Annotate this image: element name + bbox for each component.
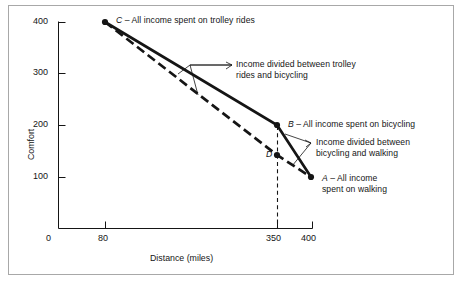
curve-trolley-bicycling (105, 22, 311, 177)
annotation-point-a-line1: All income (337, 173, 377, 183)
y-tick-label-0: 0 (46, 233, 51, 243)
callout-trolley-bicycling-line1: Income divided between trolley (236, 59, 356, 69)
annotation-point-a: A – All incomespent on walking (322, 173, 387, 196)
figure-container: 400 300 200 100 0 80 350 400 Comfort Dis… (0, 0, 464, 282)
annotation-point-c-dash: – (122, 15, 131, 25)
leader-trolley-bicycling (178, 62, 232, 95)
annotation-point-c: C – All income spent on trolley rides (116, 15, 255, 26)
x-tick-label-400: 400 (301, 233, 316, 243)
marker-point-c (102, 19, 108, 25)
x-tick-label-350: 350 (266, 233, 281, 243)
y-tick-label-300: 300 (33, 67, 48, 77)
curve-bicycling-walking (105, 22, 311, 177)
y-axis-title: Comfort (26, 129, 36, 160)
annotation-point-b-dash: – (294, 119, 303, 129)
callout-trolley-bicycling: Income divided between trolleyrides and … (236, 59, 356, 82)
callout-bicycling-walking-line2: bicycling and walking (316, 148, 398, 158)
y-axis-ticks (59, 23, 66, 178)
y-tick-label-200: 200 (33, 119, 48, 129)
callout-bicycling-walking-line1: Income divided between (316, 137, 410, 147)
y-tick-label-100: 100 (33, 171, 48, 181)
x-axis-title: Distance (miles) (150, 253, 213, 263)
y-tick-label-400: 400 (33, 16, 48, 26)
annotation-point-b: B – All income spent on bicycling (288, 119, 415, 130)
annotation-point-b-text: All income spent on bicycling (303, 119, 415, 129)
callout-bicycling-walking: Income divided betweenbicycling and walk… (316, 137, 410, 160)
marker-point-d (274, 152, 280, 158)
callout-trolley-bicycling-line2: rides and bicycling (236, 70, 308, 80)
x-tick-label-80: 80 (98, 233, 108, 243)
annotation-point-a-dash: – (328, 173, 337, 183)
marker-point-b (274, 122, 280, 128)
annotation-point-a-line2: spent on walking (322, 184, 387, 194)
annotation-point-c-text: All income spent on trolley rides (132, 15, 255, 25)
annotation-point-d: D (266, 149, 272, 159)
marker-point-a (308, 174, 314, 180)
x-axis-ticks (106, 222, 313, 229)
